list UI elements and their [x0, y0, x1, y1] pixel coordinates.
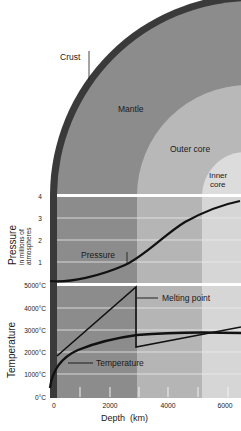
pressure-tick-1: 1	[38, 259, 42, 266]
pressure-axis-subtitle-2: atmospheres	[25, 227, 33, 265]
temp-tick-5000: 5000°C	[24, 282, 46, 289]
crust-label: Crust	[60, 52, 81, 62]
depth-tick-2000: 2000	[102, 402, 117, 409]
mantle-label: Mantle	[118, 104, 144, 114]
temp-tick-3000: 3000°C	[24, 327, 46, 334]
temp-tick-2000: 2000°C	[24, 349, 46, 356]
melting-point-annotation: Melting point	[162, 293, 211, 303]
temp-tick-1000: 1000°C	[24, 371, 46, 378]
depth-axis-title: Depth (km)	[101, 413, 148, 423]
pressure-annotation: Pressure	[81, 250, 115, 260]
pressure-tick-3: 3	[38, 215, 42, 222]
earth-interior-diagram: Crust Mantle Outer core Inner core Press…	[0, 0, 241, 431]
depth-tick-0: 0	[52, 402, 56, 409]
pressure-tick-2: 2	[38, 237, 42, 244]
temp-tick-0: 0°C	[35, 394, 46, 401]
outer-core-label: Outer core	[170, 144, 210, 154]
pressure-axis-title: Pressure	[7, 225, 18, 265]
temperature-axis-title: Temperature	[6, 321, 17, 378]
temperature-annotation: Temperature	[96, 358, 144, 368]
depth-tick-6000: 6000	[217, 402, 232, 409]
chart-bands	[50, 195, 241, 398]
pressure-tick-4: 4	[38, 193, 42, 200]
inner-core-label-2: core	[210, 180, 226, 189]
inner-core-label-1: Inner	[209, 171, 228, 180]
temp-tick-4000: 4000°C	[24, 305, 46, 312]
pressure-axis-subtitle-1: in millions of	[18, 229, 25, 265]
depth-tick-4000: 4000	[160, 402, 175, 409]
